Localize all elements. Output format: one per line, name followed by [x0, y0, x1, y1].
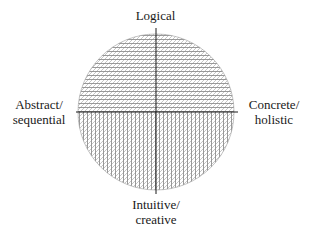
label-line: Intuitive/ [116, 197, 196, 212]
label-intuitive-creative: Intuitive/ creative [116, 197, 196, 227]
label-logical: Logical [0, 8, 311, 23]
label-abstract-sequential: Abstract/ sequential [4, 97, 74, 127]
label-line: Abstract/ [4, 97, 74, 112]
label-line: Logical [0, 8, 311, 23]
label-concrete-holistic: Concrete/ holistic [240, 97, 308, 127]
label-line: sequential [4, 112, 74, 127]
label-line: holistic [240, 112, 308, 127]
label-line: Concrete/ [240, 97, 308, 112]
label-line: creative [116, 212, 196, 227]
